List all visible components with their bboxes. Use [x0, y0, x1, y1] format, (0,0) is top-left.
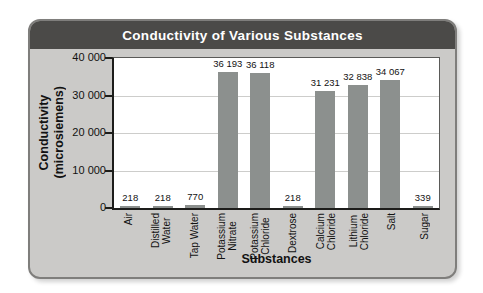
bar-column: 34 067 [374, 58, 407, 208]
bar [380, 80, 400, 208]
y-axis-tick-labels: 40 00030 00020 00010 0000 [48, 57, 106, 207]
bar-value-label: 34 067 [376, 66, 405, 77]
y-tick-mark [105, 57, 112, 59]
bar-value-label: 770 [187, 191, 203, 202]
bar-value-label: 36 193 [213, 58, 242, 69]
bar [348, 85, 368, 208]
bar-value-label: 218 [122, 192, 138, 203]
chart-title: Conductivity of Various Substances [122, 28, 363, 43]
bar-column: 218 [147, 58, 180, 208]
figure: Conductivity of Various Substances Condu… [0, 0, 483, 293]
bar-column: 32 838 [342, 58, 375, 208]
bar-column: 770 [179, 58, 212, 208]
bar-column: 36 118 [244, 58, 277, 208]
x-axis-title: Substances [112, 252, 441, 266]
bar-column: 339 [407, 58, 440, 208]
bar-column: 218 [114, 58, 147, 208]
bars-container: 21821877036 19336 11821831 23132 83834 0… [114, 58, 439, 208]
y-tick-label: 10 000 [72, 164, 106, 176]
x-tick-label: Lithium Chloride [348, 213, 370, 250]
bar-value-label: 36 118 [246, 59, 274, 70]
plot-area: 21821877036 19336 11821831 23132 83834 0… [112, 57, 440, 210]
bar-value-label: 32 838 [343, 71, 372, 82]
chart-card: Conductivity of Various Substances Condu… [28, 19, 457, 279]
bar-value-label: 218 [155, 192, 171, 203]
x-tick-label: Air [123, 213, 134, 225]
y-tick-label: 40 000 [72, 51, 106, 63]
bar [315, 91, 335, 208]
bar [120, 206, 140, 208]
y-tick-mark [105, 170, 112, 172]
x-tick-label: Dextrose [287, 213, 298, 253]
x-tick-label: Calcium Chloride [315, 213, 337, 250]
y-tick-label: 20 000 [72, 126, 106, 138]
bar-column: 36 193 [212, 58, 245, 208]
x-tick-label: Salt [386, 213, 397, 230]
bar [250, 73, 270, 208]
y-tick-mark [105, 132, 112, 134]
x-tick-label: Distilled Water [150, 213, 172, 248]
bar-column: 218 [277, 58, 310, 208]
bar-value-label: 218 [285, 192, 301, 203]
bar [218, 72, 238, 208]
bar [413, 206, 433, 208]
y-tick-label: 30 000 [72, 89, 106, 101]
bar [185, 205, 205, 208]
y-tick-mark [105, 207, 112, 209]
x-tick-label: Sugar [419, 213, 430, 240]
bar-value-label: 31 231 [311, 77, 340, 88]
bar [153, 206, 173, 208]
chart-title-bar: Conductivity of Various Substances [30, 21, 455, 49]
bar-value-label: 339 [415, 192, 431, 203]
bar [283, 206, 303, 208]
y-tick-mark [105, 95, 112, 97]
bar-column: 31 231 [309, 58, 342, 208]
